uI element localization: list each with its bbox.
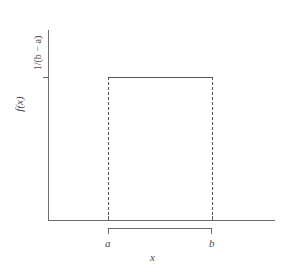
x-axis-title: x <box>150 252 155 263</box>
pdf-right-edge-dashed <box>212 77 213 220</box>
pdf-density-line <box>108 77 213 78</box>
x-tick-label-a: a <box>105 238 111 249</box>
pdf-left-edge-dashed <box>108 77 109 220</box>
uniform-distribution-chart: a b x 1/(b − a) f(x) <box>0 0 288 275</box>
x-tick-label-b: b <box>209 238 215 249</box>
y-axis-line <box>48 30 49 220</box>
y-axis-height-label: 1/(b − a) <box>32 13 44 93</box>
x-axis-line <box>48 220 275 221</box>
support-interval-bracket <box>108 228 212 234</box>
y-axis-title: f(x) <box>13 79 25 129</box>
